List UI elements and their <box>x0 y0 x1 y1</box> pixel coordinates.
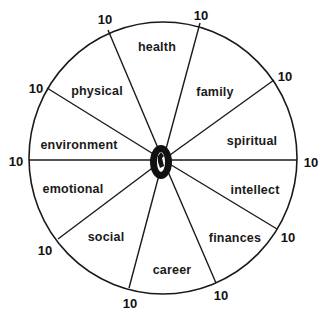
spoke-value-label: 10 <box>278 69 292 84</box>
segment-label-social: social <box>88 230 125 244</box>
spoke-value-label: 10 <box>281 230 295 245</box>
spoke-value-label: 10 <box>194 8 208 23</box>
segment-label-career: career <box>153 263 192 277</box>
spoke-value-label: 10 <box>214 288 228 303</box>
spoke-value-label: 10 <box>123 296 137 311</box>
hub <box>150 145 172 179</box>
segment-label-emotional: emotional <box>43 182 104 196</box>
spoke-value-label: 10 <box>38 243 52 258</box>
spoke-value-label: 10 <box>304 155 318 170</box>
wheel-of-life-diagram: health family spiritual intellect financ… <box>0 0 325 323</box>
segment-label-health: health <box>138 40 176 54</box>
spoke-value-label: 10 <box>98 12 112 27</box>
segment-label-family: family <box>196 85 233 99</box>
spoke-value-label: 10 <box>29 81 43 96</box>
segment-label-intellect: intellect <box>230 183 280 197</box>
spoke-value-label: 10 <box>9 154 23 169</box>
segment-label-spiritual: spiritual <box>227 134 277 148</box>
segment-label-environment: environment <box>40 138 118 152</box>
segment-label-finances: finances <box>209 231 261 245</box>
segment-label-physical: physical <box>71 84 123 98</box>
